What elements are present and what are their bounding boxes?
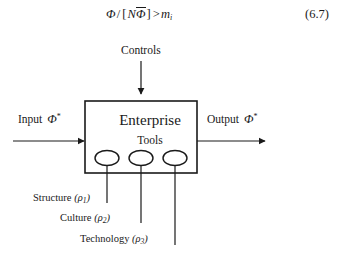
equation-phi-bar: Φ: [136, 7, 146, 21]
equation-phi-numerator: Φ: [106, 7, 116, 21]
output-label: OutputΦ*: [207, 112, 257, 127]
input-phi-symbol: Φ*: [42, 112, 61, 126]
mechanism-label-technology-text: Technology: [80, 233, 129, 244]
paren-close: ): [144, 233, 148, 244]
equation-number: (6.7): [305, 7, 329, 22]
equation-n: N: [127, 7, 135, 21]
enterprise-title: Enterprise: [105, 112, 195, 129]
output-phi-mark: *: [253, 112, 257, 121]
controls-label: Controls: [121, 44, 161, 56]
equation-bracket-close: ]: [146, 7, 152, 21]
input-phi-glyph: Φ: [47, 112, 57, 126]
mechanism-label-technology-symbol: (ρ3): [132, 233, 148, 244]
mechanism-ellipse-technology: [163, 151, 187, 166]
paren-close: ): [106, 212, 110, 223]
paren-close: ): [86, 192, 90, 203]
mechanism-label-culture-text: Culture: [60, 212, 92, 223]
mechanism-label-structure: Structure (ρ1): [33, 192, 90, 205]
mechanism-label-culture: Culture (ρ2): [60, 212, 110, 225]
input-phi-mark: *: [57, 112, 61, 121]
equation-m: m: [161, 7, 170, 21]
equation-relation: >: [152, 7, 161, 21]
tools-subtitle: Tools: [105, 134, 195, 146]
equation-m-subscript: i: [170, 13, 172, 22]
mechanism-label-technology: Technology (ρ3): [80, 233, 148, 246]
output-phi-symbol: Φ*: [239, 112, 258, 126]
output-label-text: Output: [207, 113, 239, 125]
input-label: InputΦ*: [18, 112, 61, 127]
mechanism-label-culture-symbol: (ρ2): [94, 212, 110, 223]
mechanism-label-structure-text: Structure: [33, 192, 72, 203]
mechanism-ellipse-structure: [95, 151, 119, 166]
mechanism-label-structure-symbol: (ρ1): [74, 192, 90, 203]
equation-6-7: Φ/[NΦ]>mi: [106, 7, 172, 22]
input-label-text: Input: [18, 113, 42, 125]
figure-canvas: Φ/[NΦ]>mi (6.7) Controls Enterprise Tool…: [0, 0, 362, 269]
mechanism-ellipse-culture: [129, 151, 153, 166]
